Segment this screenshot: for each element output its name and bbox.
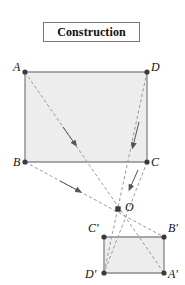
vertex-label-C-prime: C': [88, 222, 99, 234]
vertex-label-B-prime: B': [168, 222, 178, 234]
title-box: Construction: [43, 22, 140, 42]
vertex-dot-C-prime: [101, 234, 106, 239]
page-title: Construction: [57, 25, 126, 40]
vertex-dot-A: [22, 69, 27, 74]
vertex-label-C: C: [151, 156, 159, 168]
vertex-dot-B: [22, 159, 27, 164]
vertex-dot-A-prime: [161, 270, 166, 275]
vertex-label-O: O: [125, 201, 134, 213]
shape-image-rectangle: [104, 237, 164, 273]
shape-original-rectangle: [25, 72, 147, 162]
vertex-dot-B-prime: [161, 234, 166, 239]
vertex-label-A: A: [13, 61, 20, 73]
rectangle-A-B-C-D-prime: [104, 237, 164, 273]
rectangle-ABCD: [25, 72, 147, 162]
vertex-dot-D: [144, 69, 149, 74]
vertex-dot-O: [115, 206, 120, 211]
arrow-B-to-B-prime-icon: [60, 181, 79, 191]
vertex-label-B: B: [13, 156, 20, 168]
vertex-label-D-prime: D': [85, 268, 96, 280]
vertex-label-A-prime: A': [168, 268, 178, 280]
construction-diagram: [0, 0, 185, 285]
vertex-dot-C: [144, 159, 149, 164]
arrow-C-to-C-prime-icon: [130, 170, 138, 188]
vertex-label-D: D: [151, 61, 160, 73]
vertex-dot-D-prime: [101, 270, 106, 275]
